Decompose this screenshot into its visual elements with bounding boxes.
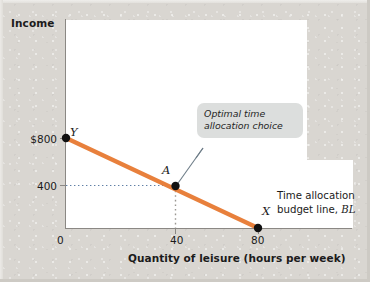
budget-line-annotation-line-1: Time allocation <box>277 189 356 203</box>
data-point-A <box>171 182 179 190</box>
data-point-X <box>254 224 262 232</box>
point-label-Y: Y <box>70 125 78 139</box>
callout-text-line-1: Optimal time <box>204 108 296 120</box>
callout-optimal-choice: Optimal time allocation choice <box>197 103 303 138</box>
economics-figure: Income Quantity of leisure (hours per we… <box>0 0 370 282</box>
point-label-A: A <box>162 163 170 177</box>
budget-line-annotation-line-2: budget line, BL <box>277 203 356 217</box>
budget-line-BL <box>66 138 258 228</box>
budget-line-annotation: Time allocation budget line, BL <box>277 189 356 216</box>
callout-text-line-2: allocation choice <box>204 120 296 132</box>
callout-leader-line-lower <box>196 148 203 158</box>
budget-line-annotation-line-2-text: budget line, <box>277 204 338 215</box>
data-point-Y <box>62 134 70 142</box>
chart-overlay <box>0 0 370 282</box>
budget-line-annotation-emphasis: BL <box>341 204 355 215</box>
point-label-X: X <box>262 204 270 218</box>
